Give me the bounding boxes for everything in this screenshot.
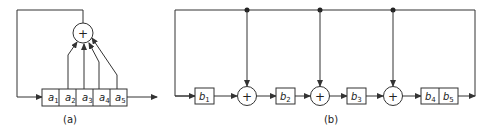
diagram-a: + a1 a2 a3 a4 a5 (a) (17, 10, 157, 125)
diagram-b: b1 + b2 + b3 + (175, 8, 475, 126)
adder-b3: + (384, 87, 403, 106)
stage-b4-b5: b4 b5 (421, 88, 458, 104)
lfsr-diagrams: + a1 a2 a3 a4 a5 (a) (0, 0, 490, 129)
stage-b2: b2 (276, 88, 295, 104)
adder-a: + (73, 23, 93, 43)
stage-b3: b3 (347, 88, 366, 104)
feedback-line-a (17, 10, 83, 97)
caption-b: (b) (324, 114, 338, 125)
adder-b1: + (238, 87, 257, 106)
tap-a4 (89, 43, 99, 89)
caption-a: (a) (63, 114, 77, 125)
svg-text:+: + (388, 90, 398, 104)
stage-b1: b1 (195, 88, 214, 104)
feedback-bus-b (175, 10, 475, 96)
svg-text:+: + (315, 90, 325, 104)
svg-text:+: + (242, 90, 252, 104)
adder-b2: + (311, 87, 330, 106)
tap-a5 (92, 38, 117, 89)
tap-a2 (68, 42, 77, 89)
svg-text:+: + (78, 27, 88, 41)
shift-register-a: a1 a2 a3 a4 a5 (42, 89, 127, 106)
